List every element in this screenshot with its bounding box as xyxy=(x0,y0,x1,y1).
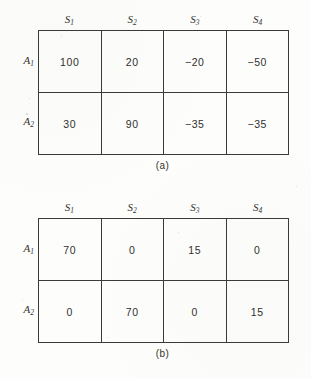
matrix-table-a: 100 20 −20 −50 30 90 −35 −35 xyxy=(38,30,289,155)
cell-a2-s2: 70 xyxy=(101,281,164,343)
column-header-s3-sub: 3 xyxy=(196,18,200,27)
cell-a1-s4: −50 xyxy=(226,31,289,93)
cell-a1-s3: 15 xyxy=(164,219,227,281)
cell-a2-s3: −35 xyxy=(164,93,227,155)
column-header-s3-sub: 3 xyxy=(196,206,200,215)
cell-a1-s1: 70 xyxy=(39,219,102,281)
column-header-s4: S4 xyxy=(226,8,289,30)
column-header-s4: S4 xyxy=(226,196,289,218)
cell-a2-s4: −35 xyxy=(226,93,289,155)
payoff-matrix-b: A1 A2 70 0 15 0 0 70 0 15 xyxy=(38,218,289,343)
column-header-s2: S2 xyxy=(101,8,164,30)
column-header-s2-sub: 2 xyxy=(133,206,137,215)
cell-a2-s1: 30 xyxy=(39,93,102,155)
cell-a1-s1: 100 xyxy=(39,31,102,93)
row-label-a2-sub: 2 xyxy=(30,308,34,317)
column-header-s1-sub: 1 xyxy=(70,206,74,215)
column-header-s2: S2 xyxy=(101,196,164,218)
column-header-row-b: S1 S2 S3 S4 xyxy=(38,196,289,218)
payoff-matrix-a: A1 A2 100 20 −20 −50 30 90 −35 xyxy=(38,30,289,155)
row-label-a2: A2 xyxy=(12,303,34,317)
scanned-page: S1 S2 S3 S4 A1 A2 100 xyxy=(0,0,311,379)
column-header-s4-sub: 4 xyxy=(259,18,263,27)
cell-a2-s1: 0 xyxy=(39,281,102,343)
cell-a1-s4: 0 xyxy=(226,219,289,281)
figure-a: S1 S2 S3 S4 A1 A2 100 xyxy=(0,8,311,171)
cell-a2-s4: 15 xyxy=(226,281,289,343)
cell-a2-s3: 0 xyxy=(164,281,227,343)
table-row: 30 90 −35 −35 xyxy=(39,93,289,155)
table-row: 100 20 −20 −50 xyxy=(39,31,289,93)
column-header-s1-sub: 1 xyxy=(70,18,74,27)
scan-speck xyxy=(296,186,297,187)
row-label-a1: A1 xyxy=(12,54,34,68)
row-label-a2: A2 xyxy=(12,115,34,129)
cell-a2-s2: 90 xyxy=(101,93,164,155)
column-header-s3: S3 xyxy=(164,196,227,218)
figure-caption-a: (a) xyxy=(0,160,311,171)
figure-b: S1 S2 S3 S4 A1 A2 70 xyxy=(0,196,311,359)
column-header-s3: S3 xyxy=(164,8,227,30)
cell-a1-s2: 20 xyxy=(101,31,164,93)
table-row: 70 0 15 0 xyxy=(39,219,289,281)
cell-a1-s3: −20 xyxy=(164,31,227,93)
cell-a1-s2: 0 xyxy=(101,219,164,281)
row-label-a1-sub: 1 xyxy=(30,247,34,256)
column-header-s2-sub: 2 xyxy=(133,18,137,27)
column-header-s1: S1 xyxy=(38,8,101,30)
row-label-a1-sub: 1 xyxy=(30,59,34,68)
column-header-s1: S1 xyxy=(38,196,101,218)
row-label-a2-sub: 2 xyxy=(30,120,34,129)
figure-caption-b: (b) xyxy=(0,348,311,359)
column-header-s4-sub: 4 xyxy=(259,206,263,215)
table-row: 0 70 0 15 xyxy=(39,281,289,343)
row-label-a1: A1 xyxy=(12,242,34,256)
column-header-row-a: S1 S2 S3 S4 xyxy=(38,8,289,30)
matrix-table-b: 70 0 15 0 0 70 0 15 xyxy=(38,218,289,343)
